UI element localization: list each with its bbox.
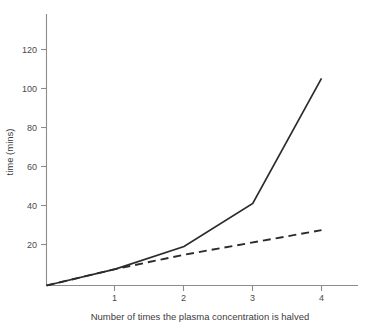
x-tick-marks — [115, 286, 322, 292]
dashed-series-line — [47, 230, 322, 285]
x-tick-label-4: 4 — [319, 293, 324, 303]
solid-series-line — [47, 78, 322, 285]
y-tick-label-40: 40 — [27, 201, 37, 211]
y-tick-label-60: 60 — [27, 162, 37, 172]
x-axis-title: Number of times the plasma concentration… — [91, 311, 310, 322]
y-tick-label-80: 80 — [27, 123, 37, 133]
x-tick-label-1: 1 — [112, 293, 117, 303]
y-tick-label-100: 100 — [22, 84, 37, 94]
x-tick-label-2: 2 — [181, 293, 186, 303]
y-tick-label-20: 20 — [27, 240, 37, 250]
line-chart: 120 100 80 60 40 20 1 2 3 4 time (mins) … — [0, 0, 373, 328]
y-axis-title: time (mins) — [4, 129, 15, 176]
x-tick-label-3: 3 — [250, 293, 255, 303]
chart-container: 120 100 80 60 40 20 1 2 3 4 time (mins) … — [0, 0, 373, 328]
y-tick-label-120: 120 — [22, 45, 37, 55]
y-tick-marks — [41, 50, 47, 245]
